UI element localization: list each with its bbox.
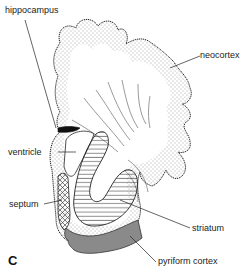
label-pyriform-cortex: pyriform cortex bbox=[158, 257, 218, 266]
label-striatum: striatum bbox=[192, 224, 224, 233]
panel-letter: C bbox=[8, 254, 17, 267]
label-septum: septum bbox=[9, 200, 39, 209]
brain-section-diagram: hippocampus neocortex ventricle septum s… bbox=[0, 0, 240, 269]
label-hippocampus: hippocampus bbox=[5, 6, 59, 15]
septum-region bbox=[58, 173, 70, 230]
label-neocortex: neocortex bbox=[200, 51, 240, 60]
label-ventricle: ventricle bbox=[8, 148, 42, 157]
